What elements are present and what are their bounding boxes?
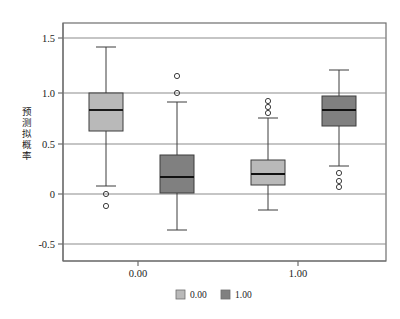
- y-tick-label-0-5: 0.5: [42, 139, 55, 150]
- legend-label-1: 1.00: [235, 290, 252, 300]
- y-tick-label-0: 0: [50, 189, 55, 200]
- y-axis-title-char-5: 率: [22, 150, 32, 161]
- x-axis: [63, 261, 386, 266]
- y-tick-label-1-5: 1.5: [42, 33, 55, 44]
- plot-background: [63, 23, 386, 261]
- y-tick-label-1-0: 1.0: [42, 88, 55, 99]
- box-iqr: [251, 160, 285, 185]
- y-tick-labels: 1.5 1.0 0.5 0 -0.5: [38, 33, 55, 250]
- box-iqr: [89, 93, 123, 131]
- y-tick-label-minus-0-5: -0.5: [38, 239, 55, 250]
- legend-label-0: 0.00: [190, 290, 207, 300]
- y-axis-title: 预 测 拟 概 率: [22, 107, 32, 161]
- legend-swatch-light-gray-icon: [176, 290, 185, 299]
- y-axis-title-char-4: 概: [22, 139, 32, 150]
- x-tick-labels: 0.00 1.00: [129, 268, 307, 279]
- y-axis: [58, 23, 63, 261]
- chart-canvas: 1.5 1.0 0.5 0 -0.5 预 测 拟 概 率 0.00 1.00: [0, 0, 400, 319]
- legend-swatch-dark-gray-icon: [221, 290, 230, 299]
- y-axis-title-char-2: 测: [22, 118, 32, 128]
- y-axis-title-char-3: 拟: [22, 128, 32, 139]
- x-tick-label-0: 0.00: [129, 268, 147, 279]
- y-axis-title-char-1: 预: [22, 107, 32, 117]
- x-tick-label-1: 1.00: [289, 268, 307, 279]
- box-iqr: [160, 155, 194, 193]
- boxplot-chart: 1.5 1.0 0.5 0 -0.5 预 测 拟 概 率 0.00 1.00: [0, 0, 400, 319]
- legend: 0.00 1.00: [176, 290, 252, 300]
